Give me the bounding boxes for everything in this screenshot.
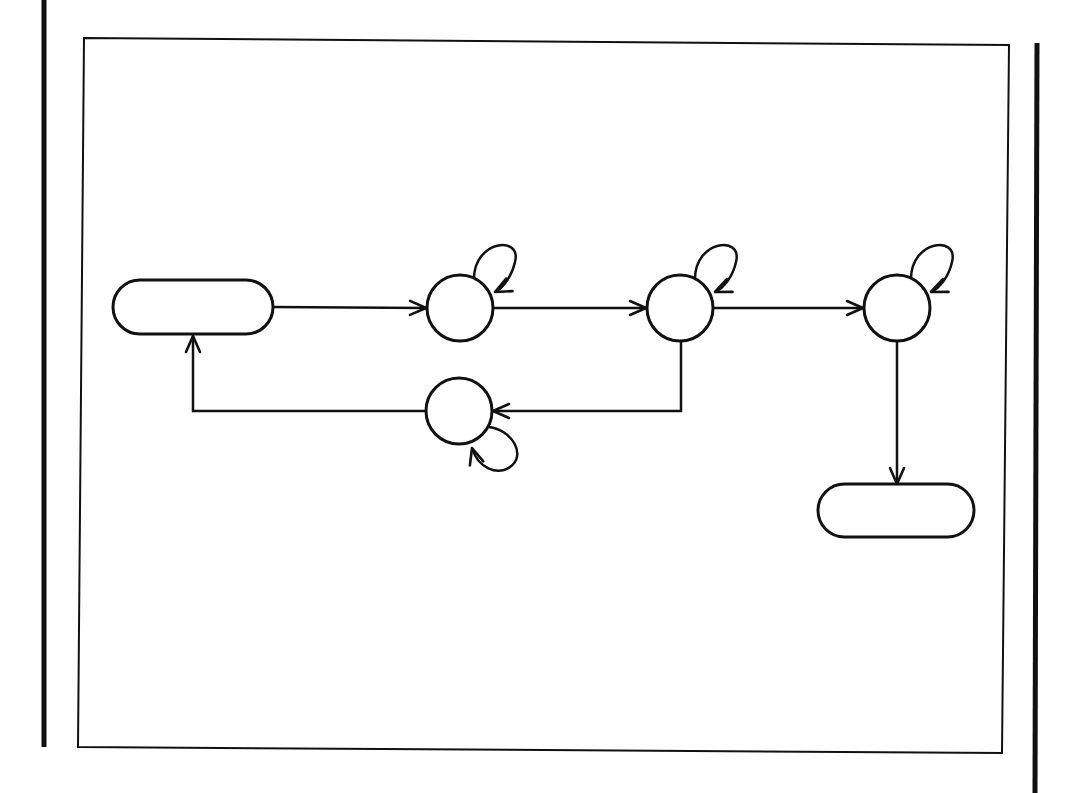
end-terminal	[818, 484, 974, 537]
state-3	[864, 275, 930, 341]
diagram-frame	[78, 38, 1009, 753]
state-1	[427, 275, 493, 341]
start-terminal	[113, 280, 273, 334]
state-4	[426, 378, 492, 444]
right-page-bar	[1035, 43, 1037, 793]
edge-start-to-state-1	[273, 307, 426, 308]
state-2	[647, 275, 713, 341]
edge-state-2-to-state-4	[493, 341, 681, 411]
state-diagram-canvas	[0, 0, 1078, 793]
edge-state-4-to-start	[193, 336, 426, 411]
